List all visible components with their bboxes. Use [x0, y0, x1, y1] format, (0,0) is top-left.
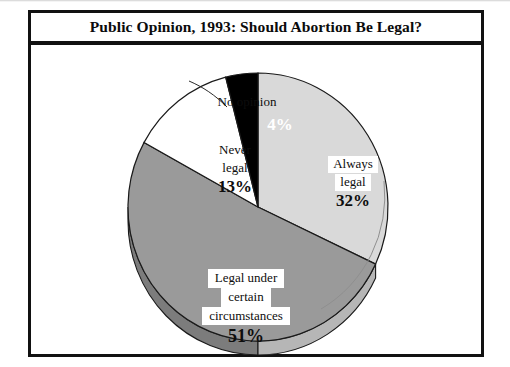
top-scan-line	[0, 0, 510, 2]
slice-label-legal-certain-line1: Legal under	[208, 269, 284, 288]
slice-label-no-opinion-text: No opinion	[213, 94, 282, 111]
slice-label-never-legal: Never legal 13%	[199, 141, 271, 196]
plot-area: No opinion 4% Never legal 13% Always leg…	[31, 45, 481, 354]
slice-value-no-opinion: 4%	[259, 115, 301, 135]
slice-label-no-opinion: No opinion	[189, 93, 305, 111]
slice-value-always-legal: 32%	[314, 192, 392, 210]
slice-value-never-legal: 13%	[199, 178, 271, 196]
slice-label-never-legal-line2: legal	[217, 160, 252, 177]
source-credit	[300, 360, 506, 366]
slice-label-legal-certain: Legal under certain circumstances 51%	[174, 269, 318, 346]
slice-label-never-legal-line1: Never	[214, 142, 256, 159]
slice-label-always-legal-line2: legal	[335, 174, 370, 191]
slice-label-legal-certain-line3: circumstances	[202, 307, 290, 326]
slice-label-always-legal-line1: Always	[328, 156, 378, 173]
chart-frame: Public Opinion, 1993: Should Abortion Be…	[28, 10, 484, 357]
slice-label-legal-certain-line2: certain	[221, 288, 270, 307]
slice-label-always-legal: Always legal 32%	[314, 155, 392, 210]
slice-value-legal-certain: 51%	[174, 327, 318, 346]
